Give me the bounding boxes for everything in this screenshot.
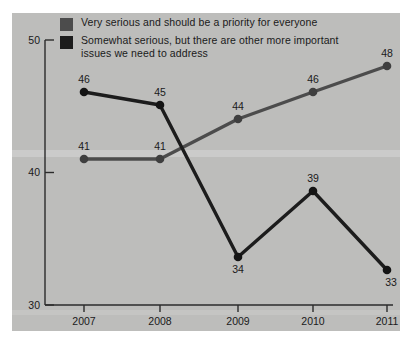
series-point-somewhat-serious: [234, 253, 243, 262]
series-point-very-serious: [80, 155, 89, 164]
data-label-very-serious-2010: 46: [300, 73, 326, 85]
data-label-somewhat-serious-2011: 33: [378, 276, 400, 288]
y-axis-tick-label-50: 50: [18, 34, 40, 46]
x-axis-tick-label-2009: 2009: [224, 315, 252, 327]
x-axis-tick-label-2010: 2010: [299, 315, 327, 327]
data-label-somewhat-serious-2008: 45: [147, 86, 173, 98]
legend-swatch-icon: [60, 36, 73, 49]
plot-panel: Very serious and should be a priority fo…: [12, 13, 400, 331]
line-chart-figure: Very serious and should be a priority fo…: [0, 0, 411, 346]
x-axis-tick-label-2007: 2007: [70, 315, 98, 327]
x-axis-tick-label-2008: 2008: [146, 315, 174, 327]
data-label-very-serious-2011: 48: [374, 47, 400, 59]
data-label-very-serious-2007: 41: [71, 140, 97, 152]
chart-legend: Very serious and should be a priority fo…: [60, 16, 370, 62]
y-axis-tick-label-30: 30: [18, 299, 40, 311]
data-label-very-serious-2008: 41: [147, 140, 173, 152]
series-point-very-serious: [234, 115, 243, 124]
data-label-very-serious-2009: 44: [225, 100, 251, 112]
series-point-somewhat-serious: [80, 88, 89, 97]
data-label-somewhat-serious-2007: 46: [71, 73, 97, 85]
series-point-somewhat-serious: [156, 101, 165, 110]
data-label-somewhat-serious-2009: 34: [225, 263, 251, 275]
series-point-somewhat-serious: [309, 187, 318, 196]
series-point-very-serious: [156, 155, 165, 164]
legend-label-somewhat-serious: Somewhat serious, but there are other mo…: [81, 34, 370, 59]
series-line-very-serious: [84, 66, 387, 159]
series-point-somewhat-serious: [383, 266, 392, 275]
legend-label-very-serious: Very serious and should be a priority fo…: [81, 16, 317, 29]
series-point-very-serious: [383, 62, 392, 71]
legend-item-very-serious: Very serious and should be a priority fo…: [60, 16, 370, 31]
x-axis-tick-label-2011: 2011: [373, 315, 400, 327]
legend-swatch-icon: [60, 18, 73, 31]
series-point-very-serious: [309, 88, 318, 97]
legend-item-somewhat-serious: Somewhat serious, but there are other mo…: [60, 34, 370, 59]
data-label-somewhat-serious-2010: 39: [300, 172, 326, 184]
y-axis-tick-label-40: 40: [18, 166, 40, 178]
